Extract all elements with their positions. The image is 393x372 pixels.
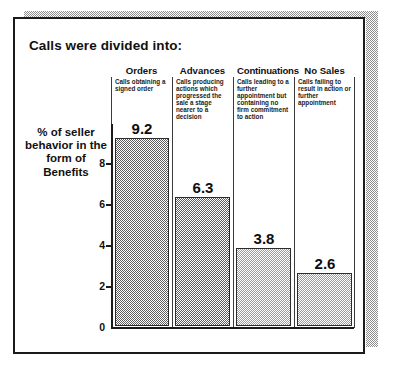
- column-header-no-sales: No Sales Calls failing to result in acti…: [294, 65, 355, 106]
- column-title: Orders: [115, 65, 168, 76]
- bar-value-orders: 9.2: [112, 121, 172, 136]
- y-tick-label: 8: [89, 159, 105, 167]
- bar-value-no-sales: 2.6: [295, 256, 355, 271]
- y-axis-label: % of seller behavior in the form of Bene…: [23, 126, 109, 179]
- column-header-advances: Advances Calls producing actions which p…: [172, 65, 233, 121]
- bar-continuations: [236, 248, 291, 326]
- column-description: Calls failing to result in action or fur…: [298, 78, 351, 106]
- column-header-continuations: Continuations Calls leading to a further…: [233, 65, 294, 121]
- slide-shadow-right: [366, 11, 378, 347]
- slide-frame: Calls were divided into: % of seller beh…: [13, 17, 365, 354]
- slide-container: Calls were divided into: % of seller beh…: [0, 0, 393, 372]
- y-tick-mark: [106, 245, 111, 247]
- bar-advances: [175, 197, 230, 326]
- bar-orders: [115, 138, 169, 326]
- chart-title: Calls were divided into:: [29, 38, 182, 53]
- column-title: No Sales: [298, 65, 351, 76]
- bar-value-advances: 6.3: [173, 180, 233, 195]
- y-tick-mark: [106, 163, 111, 165]
- column-title: Advances: [176, 65, 229, 76]
- column-title: Continuations: [237, 65, 290, 76]
- plot-area: 8 6 4 2 0 9.2 6.3 3.8 2.6: [111, 124, 353, 328]
- y-tick-label: 4: [89, 241, 105, 249]
- y-tick-label: 2: [89, 282, 105, 290]
- y-tick-mark: [106, 286, 111, 288]
- bar-no-sales: [297, 273, 352, 326]
- column-description: Calls producing actions which progressed…: [176, 78, 229, 121]
- bar-value-continuations: 3.8: [234, 231, 294, 246]
- column-headers: Orders Calls obtaining a signed order Ad…: [111, 65, 357, 125]
- y-tick-mark: [106, 204, 111, 206]
- column-description: Calls leading to a further appointment b…: [237, 78, 290, 121]
- column-description: Calls obtaining a signed order: [115, 78, 168, 92]
- x-axis-baseline: [111, 327, 354, 329]
- y-axis-line: [111, 124, 113, 329]
- y-tick-label: 6: [89, 200, 105, 208]
- column-separator: [354, 77, 355, 328]
- column-header-orders: Orders Calls obtaining a signed order: [111, 65, 172, 92]
- y-tick-label: 0: [89, 323, 105, 331]
